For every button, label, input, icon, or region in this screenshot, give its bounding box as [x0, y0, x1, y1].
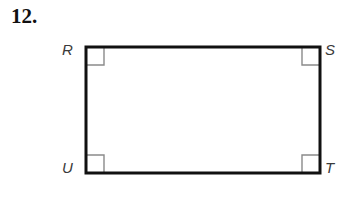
right-angle-mark-T: [302, 155, 320, 173]
rectangle-outline: [86, 47, 320, 173]
vertex-label-R: R: [62, 41, 73, 58]
page-canvas: 12. R S T U: [0, 0, 354, 203]
vertex-label-U: U: [62, 159, 73, 176]
vertex-label-T: T: [325, 159, 334, 176]
geometry-figure: [0, 0, 354, 203]
rectangle-rstu-svg: [0, 0, 354, 203]
right-angle-marks: [86, 47, 320, 173]
right-angle-mark-S: [302, 47, 320, 65]
right-angle-mark-R: [86, 47, 104, 65]
right-angle-mark-U: [86, 155, 104, 173]
vertex-label-S: S: [325, 41, 335, 58]
